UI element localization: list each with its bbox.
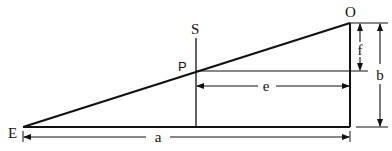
similar-triangles-diagram: a e f b E O S P [0,0,392,151]
label-point-O: O [345,4,356,20]
main-triangle [23,23,350,127]
label-a: a [155,129,162,145]
label-b: b [376,67,384,83]
dimension-f: f [358,24,363,70]
label-point-E: E [8,125,17,141]
hypotenuse-line-EO [23,23,350,127]
label-point-P: P [178,59,187,74]
label-point-S: S [191,21,199,37]
label-f: f [358,42,363,58]
dimension-b: b [376,24,384,126]
label-e: e [263,78,270,94]
dimension-a: a [23,129,350,145]
dimension-e: e [197,78,349,94]
